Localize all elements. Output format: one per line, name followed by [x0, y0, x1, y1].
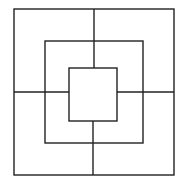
inner-square: [69, 68, 117, 121]
morris-board: [0, 0, 183, 181]
